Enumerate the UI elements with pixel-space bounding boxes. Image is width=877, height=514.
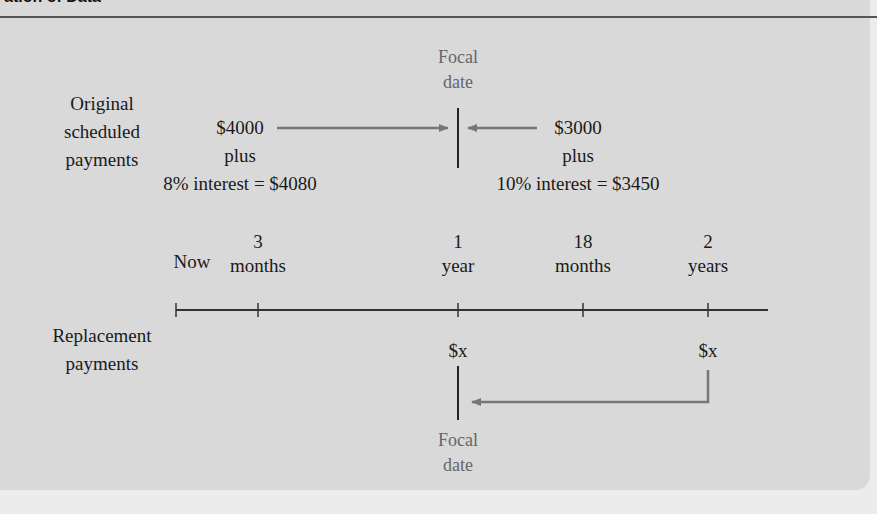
focal-label: Focal (438, 428, 478, 453)
payment-interest: 8% interest = $4080 (163, 170, 317, 198)
payment-left: $4000 plus 8% interest = $4080 (163, 114, 317, 198)
arrow-replacement (472, 370, 708, 402)
focal-date-top: Focal date (438, 45, 478, 95)
payment-interest: 10% interest = $3450 (496, 170, 659, 198)
payment-right: $3000 plus 10% interest = $3450 (496, 114, 659, 198)
replacement-payments-label: Replacement payments (52, 322, 151, 378)
label-line: scheduled (64, 118, 140, 146)
label-line: payments (64, 146, 140, 174)
focal-label: Focal (438, 45, 478, 70)
date-label: date (438, 70, 478, 95)
payment-plus: plus (163, 142, 317, 170)
label-line: payments (52, 350, 151, 378)
timeline-3-months: 3 months (230, 228, 286, 280)
label-line: Replacement (52, 322, 151, 350)
tick-unit: year (442, 252, 475, 280)
focal-date-bottom: Focal date (438, 428, 478, 478)
timeline-now: Now (174, 248, 211, 276)
replacement-payment-1-year: $x (449, 337, 468, 365)
timeline-18-months: 18 months (555, 228, 611, 280)
tick-unit: months (230, 252, 286, 280)
timeline-2-years: 2 years (688, 228, 728, 280)
payment-amount: $4000 (163, 114, 317, 142)
replacement-payment-2-years: $x (699, 337, 718, 365)
timeline-1-year: 1 year (442, 228, 475, 280)
tick-unit: months (555, 252, 611, 280)
payment-amount: $3000 (496, 114, 659, 142)
payment-plus: plus (496, 142, 659, 170)
original-payments-label: Original scheduled payments (64, 90, 140, 174)
tick-unit: years (688, 252, 728, 280)
date-label: date (438, 453, 478, 478)
label-line: Original (64, 90, 140, 118)
